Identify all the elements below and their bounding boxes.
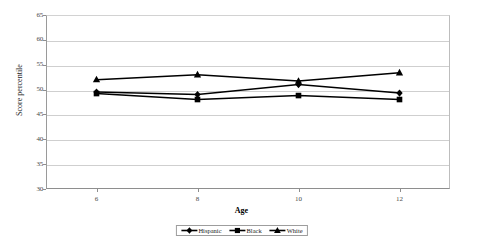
y-axis-tick-mark	[43, 40, 46, 41]
y-axis-tick-label: 60	[13, 36, 43, 43]
x-axis-tick-mark	[198, 189, 199, 192]
square-marker-icon	[229, 226, 246, 235]
x-axis-tick-mark	[400, 189, 401, 192]
y-axis-tick-mark	[43, 139, 46, 140]
gridline	[47, 91, 449, 92]
y-axis-tick-mark	[43, 164, 46, 165]
y-axis-tick-label: 55	[13, 61, 43, 68]
gridline	[47, 165, 449, 166]
y-axis-tick-label: 30	[13, 186, 43, 193]
y-axis-tick-mark	[43, 189, 46, 190]
gridline	[47, 140, 449, 141]
y-axis-tick-mark	[43, 15, 46, 16]
x-axis-tick-label: 10	[284, 196, 314, 203]
triangle-marker-icon	[269, 226, 286, 235]
y-axis-tick-label: 35	[13, 161, 43, 168]
x-axis-tick-mark	[97, 189, 98, 192]
legend-label: Black	[247, 227, 262, 234]
legend-item-hispanic[interactable]: Hispanic	[180, 226, 221, 235]
y-axis-tick-label: 65	[13, 12, 43, 19]
gridline	[47, 66, 449, 67]
y-axis-tick-label: 45	[13, 111, 43, 118]
diamond-marker-icon	[180, 226, 197, 235]
legend-label: Hispanic	[198, 227, 221, 234]
gridline	[47, 41, 449, 42]
x-axis-tick-mark	[299, 189, 300, 192]
y-axis-tick-label: 50	[13, 86, 43, 93]
y-axis-tick-label: 40	[13, 136, 43, 143]
gridline	[47, 115, 449, 116]
plot-area	[46, 15, 450, 189]
chart-legend: HispanicBlackWhite	[175, 225, 307, 236]
legend-item-white[interactable]: White	[269, 226, 303, 235]
x-axis-tick-label: 8	[183, 196, 213, 203]
line-chart: Score percentile 6560555045403530681012 …	[0, 0, 483, 251]
y-axis-tick-mark	[43, 65, 46, 66]
x-axis-tick-label: 12	[385, 196, 415, 203]
legend-item-black[interactable]: Black	[229, 226, 262, 235]
x-axis-title: Age	[0, 206, 483, 215]
y-axis-tick-mark	[43, 90, 46, 91]
x-axis-tick-label: 6	[82, 196, 112, 203]
y-axis-tick-mark	[43, 114, 46, 115]
legend-label: White	[287, 227, 303, 234]
